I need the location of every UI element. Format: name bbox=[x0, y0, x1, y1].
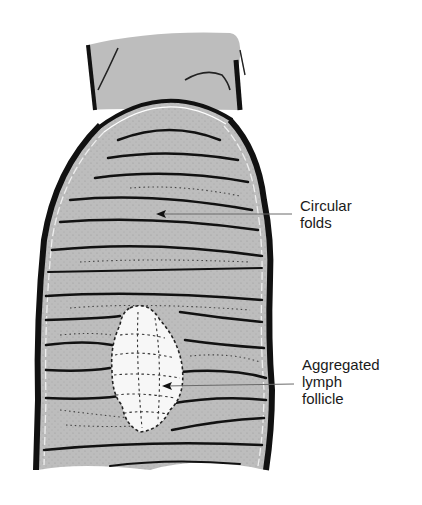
intestine-illustration bbox=[0, 0, 422, 505]
intestine-tube-upper bbox=[88, 33, 245, 111]
label-line: Aggregated bbox=[302, 356, 380, 373]
intestine-diagram: Circular folds Aggregated lymph follicle bbox=[0, 0, 422, 505]
label-line: follicle bbox=[302, 390, 380, 407]
label-aggregated-lymph-follicle: Aggregated lymph follicle bbox=[302, 356, 380, 407]
label-line: Circular bbox=[300, 197, 352, 214]
label-line: folds bbox=[300, 214, 352, 231]
label-line: lymph bbox=[302, 373, 380, 390]
label-circular-folds: Circular folds bbox=[300, 197, 352, 231]
